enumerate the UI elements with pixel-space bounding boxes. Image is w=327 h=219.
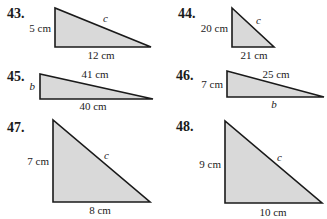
problem-number: 46. [176,68,194,83]
horizontal-leg-label: b [271,98,277,110]
problem-46: 46. 7 cm 25 cm b [176,68,324,110]
problem-number: 48. [176,119,194,134]
problem-number: 44. [178,6,196,21]
vertical-leg-label: 7 cm [27,155,49,167]
vertical-leg-label: 5 cm [29,22,51,34]
hypotenuse-label: 25 cm [262,68,290,80]
horizontal-leg-label: 40 cm [79,100,107,112]
hypotenuse-label: c [103,12,108,24]
horizontal-leg-label: 12 cm [87,49,115,61]
hypotenuse-label: c [256,14,261,26]
problem-47: 47. 7 cm c 8 cm [7,120,150,216]
hypotenuse-label: c [104,149,109,161]
right-triangle [232,8,274,47]
horizontal-leg-label: 8 cm [89,204,111,216]
problem-43: 43. 5 cm c 12 cm [7,6,151,61]
right-triangle [225,121,322,203]
horizontal-leg-label: 21 cm [240,49,268,61]
hypotenuse-label: 41 cm [81,68,109,80]
vertical-leg-label: 9 cm [199,158,221,170]
problem-48: 48. 9 cm c 10 cm [176,119,322,218]
horizontal-leg-label: 10 cm [259,206,287,218]
right-triangle-exercises: 43. 5 cm c 12 cm 44. 20 cm c 21 cm 45. b… [0,0,327,219]
problem-number: 47. [7,120,25,135]
vertical-leg-label: 20 cm [201,22,229,34]
vertical-leg-label: 7 cm [201,78,223,90]
problem-44: 44. 20 cm c 21 cm [178,6,274,61]
hypotenuse-label: c [277,151,282,163]
vertical-leg-label: b [30,80,36,92]
problem-45: 45. b 41 cm 40 cm [7,68,153,112]
problem-number: 43. [7,6,25,21]
problem-number: 45. [7,69,25,84]
right-triangle [53,120,150,202]
